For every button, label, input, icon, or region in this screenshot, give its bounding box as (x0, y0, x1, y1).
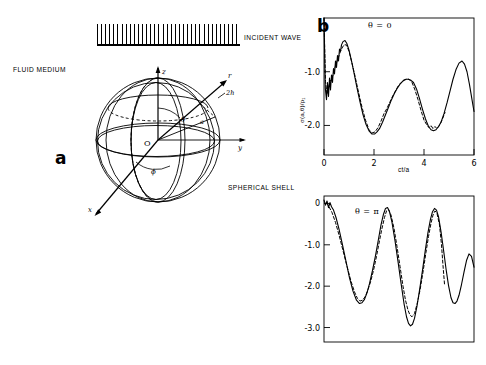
x-tick-label: 2 (371, 159, 376, 168)
shell-thickness-label: 2h (225, 89, 234, 97)
panel-a-diagram: INCIDENT WAVE FLUID MEDIUM SPHERICAL SHE… (0, 0, 292, 365)
plot-theta-0: θ = 0 σ(a,θ)/p₁ ct/a -1.0-2.00246 (292, 0, 486, 182)
panel-a-letter: a (55, 148, 66, 168)
spherical-shell-diagram: z y x r O θ ϕ a 2h (78, 62, 253, 222)
curve-solid (324, 18, 474, 134)
figure-root: INCIDENT WAVE FLUID MEDIUM SPHERICAL SHE… (0, 0, 486, 365)
axis-z-arrowhead (156, 66, 161, 73)
panel-b-plots: b θ = 0 σ(a,θ)/p₁ ct/a -1.0-2.00246 θ = … (292, 0, 486, 365)
y-tick-label: -2.0 (304, 121, 320, 130)
y-tick-label: -1.0 (304, 241, 320, 250)
arc-angle-label: a (200, 118, 204, 126)
incident-wave-baseline (97, 44, 240, 46)
plot-theta-0-xlabel: ct/a (398, 166, 409, 173)
y-tick-label: 0 (315, 199, 320, 208)
x-tick-label: 0 (321, 159, 326, 168)
phi-angle-label: ϕ (151, 168, 156, 176)
curve-dashed (324, 18, 445, 133)
y-tick-label: -3.0 (304, 324, 320, 333)
plot-theta-pi-annotation: θ = π (355, 207, 379, 216)
axis-y-arrowhead (240, 138, 247, 142)
origin-label: O (144, 139, 151, 148)
axis-x-arrowhead (95, 209, 102, 216)
equator-ellipse-inner (98, 126, 215, 157)
thickness-leader-line (218, 93, 225, 98)
plot-theta-0-ylabel: σ(a,θ)/p₁ (298, 97, 305, 123)
axis-z-label: z (161, 68, 166, 76)
radial-vector-line (158, 82, 225, 140)
x-tick-label: 6 (471, 159, 476, 168)
projection-line-equatorial (158, 117, 215, 140)
plot-theta-0-annotation: θ = 0 (368, 21, 392, 30)
y-tick-label: -2.0 (304, 282, 320, 291)
y-tick-label: -1.0 (304, 68, 320, 77)
fluid-medium-label: FLUID MEDIUM (13, 66, 66, 73)
axis-x-line (96, 140, 158, 214)
incident-wave-hatching (97, 24, 240, 44)
x-tick-label: 4 (421, 159, 426, 168)
plot-theta-pi: θ = π 0-1.0-2.0-3.0 (292, 182, 486, 365)
curve-dashed (327, 203, 445, 317)
axis-x-label: x (88, 206, 92, 214)
incident-wave-graphic (97, 24, 240, 48)
axis-y-label: y (237, 144, 243, 152)
radial-vector-label: r (228, 72, 232, 80)
